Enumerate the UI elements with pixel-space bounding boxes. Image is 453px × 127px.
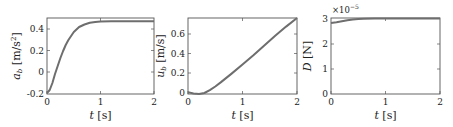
y-scale-exponent: ×10−5	[332, 3, 359, 15]
plot-acceleration: 0 1 2 -0.2 0 0.2 0.4 t [s] ab [m/s2]	[10, 18, 157, 122]
acceleration-curve	[47, 21, 154, 93]
x-axis-label: t [s]	[374, 109, 396, 122]
y-tick-label: 1	[322, 64, 328, 74]
y-tick-label: 0.4	[30, 24, 45, 34]
x-tick-label: 0	[44, 97, 50, 107]
velocity-curve	[188, 18, 297, 94]
y-tick-label: 0	[38, 67, 44, 77]
y-tick-label: 3	[322, 14, 328, 24]
y-tick-label: 0.6	[171, 29, 186, 39]
y-tick-label: 0.2	[171, 68, 185, 78]
y-tick-label: 0	[179, 88, 185, 98]
plot-frame	[331, 18, 440, 94]
x-tick-label: 0	[328, 97, 334, 107]
y-tick-label: -0.2	[27, 89, 44, 99]
y-axis-label: ub [m/s]	[154, 34, 168, 77]
plot-frame	[47, 18, 154, 94]
y-tick-label: 0.2	[30, 46, 44, 56]
y-axis-label: ab [m/s2]	[10, 32, 24, 79]
x-tick-label: 2	[437, 97, 443, 107]
y-tick-label: 0.4	[171, 49, 186, 59]
y-tick-label: 0	[322, 89, 328, 99]
x-tick-label: 2	[151, 97, 157, 107]
x-tick-label: 0	[185, 97, 191, 107]
x-tick-label: 2	[294, 97, 300, 107]
x-axis-label: t [s]	[231, 109, 253, 122]
y-axis-label: D [N]	[301, 41, 314, 73]
x-axis-label: t [s]	[89, 109, 111, 122]
y-tick-label: 2	[322, 39, 328, 49]
figure: 0 1 2 -0.2 0 0.2 0.4 t [s] ab [m/s2] 0 1…	[0, 0, 453, 127]
plot-drag: 0 1 2 0 1 2 3 ×10−5 t [s] D [N]	[301, 3, 443, 122]
plot-frame	[188, 18, 297, 94]
plot-velocity: 0 1 2 0 0.2 0.4 0.6 t [s] ub [m/s]	[154, 18, 300, 122]
x-tick-label: 1	[98, 97, 104, 107]
x-tick-label: 1	[240, 97, 246, 107]
x-tick-label: 1	[383, 97, 389, 107]
